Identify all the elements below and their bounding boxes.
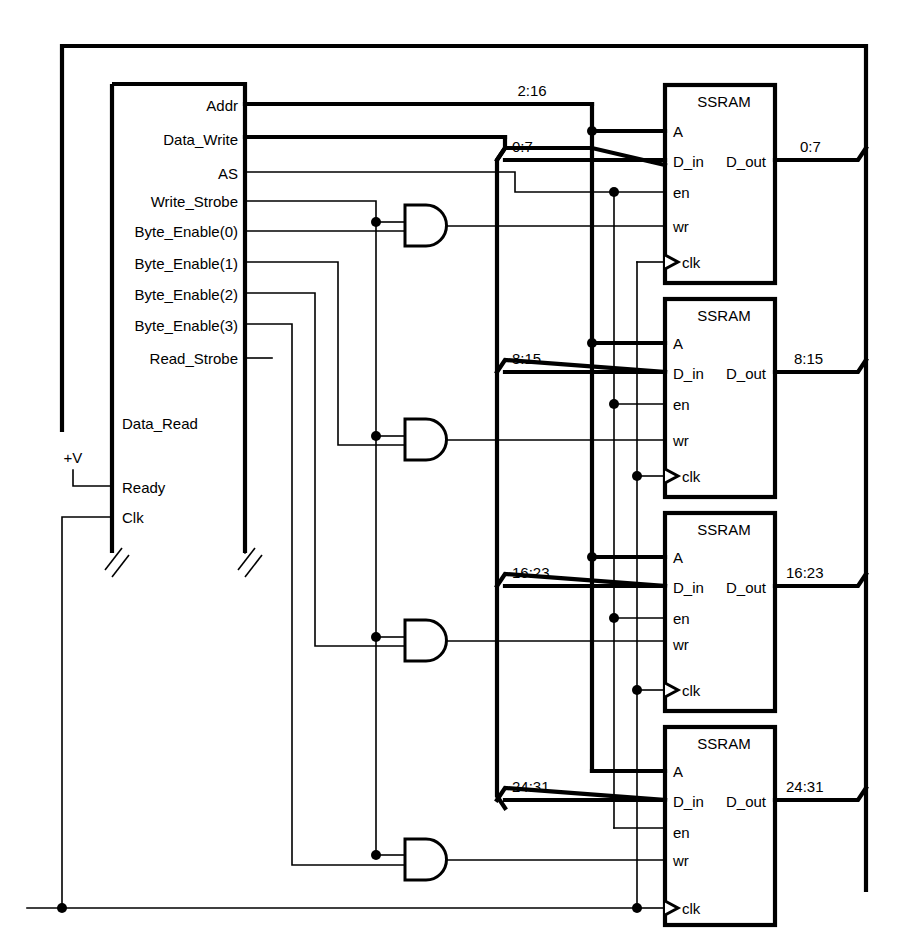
pin-label-din-3: D_in [673,579,704,596]
pin-label-din-4: D_in [673,793,704,810]
address-bus [245,104,665,771]
pin-label-a-3: A [673,549,683,566]
pin-label-dout-1: D_out [726,153,767,170]
pin-label-wr-3: wr [672,636,689,653]
junction-dot-ws-2 [371,632,381,642]
ssram-block-1: SSRAM A D_in D_out en wr clk [665,85,775,283]
pin-label-a-4: A [673,763,683,780]
ssram-title-3: SSRAM [697,521,750,538]
ssram-block-4: SSRAM A D_in D_out en wr clk [665,727,775,925]
ssram-block-2: SSRAM A D_in D_out en wr clk [665,299,775,497]
bus-label-din-8-15: 8:15 [512,350,541,367]
junction-dot-addr-2 [587,552,597,562]
bus-label-dout-16-23: 16:23 [786,564,824,581]
ssram-title-2: SSRAM [697,307,750,324]
pin-label-en-3: en [673,610,690,627]
junction-dot-clk-2 [632,685,642,695]
and-gate-byte1 [405,419,665,460]
pin-label-wr-4: wr [672,852,689,869]
bus-label-din-24-31: 24:31 [512,778,550,795]
port-label-byte-enable-1: Byte_Enable(1) [135,255,238,272]
pin-label-din-1: D_in [673,153,704,170]
and-gate-byte2 [405,620,665,661]
pin-label-en-2: en [673,396,690,413]
junction-dot-addr-0 [587,126,597,136]
write-strobe-net [245,201,405,860]
port-label-data-read: Data_Read [122,415,198,432]
byte-enable-3-net [245,324,405,865]
as-enable-net [245,172,665,828]
pin-label-clk-2: clk [682,468,701,485]
port-label-write-strobe: Write_Strobe [151,193,238,210]
junction-dot-en-1 [609,399,619,409]
bus-label-din-16-23: 16:23 [512,564,550,581]
port-label-read-strobe: Read_Strobe [150,350,238,367]
pin-label-clk-3: clk [682,682,701,699]
pin-label-wr-1: wr [672,218,689,235]
byte-enable-1-net [245,262,405,445]
pin-label-clk-4: clk [682,900,701,917]
port-label-byte-enable-2: Byte_Enable(2) [135,286,238,303]
junction-dot-addr-1 [587,338,597,348]
pin-label-en-1: en [673,184,690,201]
junction-dot-en-0 [609,187,619,197]
ssram-title-1: SSRAM [697,93,750,110]
junction-dot-en-2 [609,613,619,623]
bus-label-dout-24-31: 24:31 [786,778,824,795]
byte-enable-2-net [245,293,405,646]
bus-label-addr-range: 2:16 [517,82,546,99]
port-label-byte-enable-3: Byte_Enable(3) [135,317,238,334]
diagram-canvas: Addr Data_Write AS Write_Strobe Byte_Ena… [0,0,900,949]
junction-dot-clk-3 [632,903,642,913]
supply-label-plus-v: +V [64,449,83,466]
readstrobe-break-symbol [238,548,262,577]
supply-stub-wire [73,470,112,486]
and-gate-byte0 [405,205,665,246]
pin-label-wr-2: wr [672,432,689,449]
pin-label-en-4: en [673,824,690,841]
bus-label-dout-8-15: 8:15 [794,350,823,367]
port-label-addr: Addr [206,97,238,114]
pin-label-dout-2: D_out [726,365,767,382]
and-gate-byte3 [405,839,665,880]
pin-label-din-2: D_in [673,365,704,382]
processor-break-symbol [105,548,129,577]
read-strobe-net [245,358,272,553]
pin-label-clk-1: clk [682,254,701,271]
data-write-bus [245,137,665,808]
junction-dot-ws-1 [371,431,381,441]
processor-port-labels: Addr Data_Write AS Write_Strobe Byte_Ena… [64,97,238,526]
junction-dot-ws-0 [371,217,381,227]
pin-label-a-1: A [673,123,683,140]
pin-label-a-2: A [673,335,683,352]
pin-label-dout-3: D_out [726,579,767,596]
port-label-data-write: Data_Write [163,131,238,148]
data-read-merge-bus [775,148,866,800]
circuit-diagram: Addr Data_Write AS Write_Strobe Byte_Ena… [0,0,900,949]
junction-dot-ws-3 [371,850,381,860]
ssram-block-3: SSRAM A D_in D_out en wr clk [665,513,775,711]
ssram-title-4: SSRAM [697,735,750,752]
port-label-ready: Ready [122,479,166,496]
port-label-clk: Clk [122,509,144,526]
bus-label-din-0-7: 0:7 [512,138,533,155]
port-label-byte-enable-0: Byte_Enable(0) [135,223,238,240]
junction-dot-clk-1 [632,471,642,481]
port-label-as: AS [218,165,238,182]
bus-label-dout-0-7: 0:7 [800,138,821,155]
pin-label-dout-4: D_out [726,793,767,810]
